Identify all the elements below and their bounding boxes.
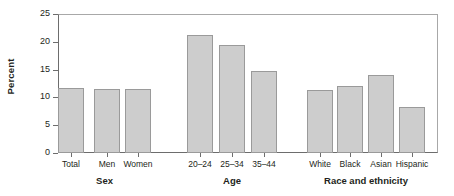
x-axis-tick-mark: [320, 153, 321, 157]
x-axis-tick-mark: [264, 153, 265, 157]
bar: [307, 90, 333, 153]
x-axis-tick-mark: [350, 153, 351, 157]
x-axis-group-label: Age: [162, 174, 302, 187]
x-axis-category-label: Women: [108, 158, 168, 170]
x-axis-category-label: Hispanic: [382, 158, 442, 170]
x-axis-tick-mark: [412, 153, 413, 157]
bar: [337, 86, 363, 153]
bar-chart: Percent 0510152025 TotalMenWomen20–2425–…: [0, 0, 454, 196]
x-axis-tick-mark: [381, 153, 382, 157]
x-axis-tick-mark: [232, 153, 233, 157]
bar: [251, 71, 277, 153]
x-axis-category-label: 35–44: [234, 158, 294, 170]
bar: [94, 89, 120, 153]
bar: [125, 89, 151, 153]
bar: [368, 75, 394, 153]
bar: [58, 88, 84, 153]
x-axis-tick-mark: [71, 153, 72, 157]
bar: [399, 107, 425, 153]
bars-layer: TotalMenWomen20–2425–3435–44WhiteBlackAs…: [0, 0, 454, 196]
x-axis-tick-mark: [107, 153, 108, 157]
x-axis-group-label: Race and ethnicity: [296, 174, 436, 187]
x-axis-tick-mark: [200, 153, 201, 157]
x-axis-tick-mark: [138, 153, 139, 157]
x-axis-group-label: Sex: [35, 174, 175, 187]
bar: [187, 35, 213, 153]
bar: [219, 45, 245, 153]
